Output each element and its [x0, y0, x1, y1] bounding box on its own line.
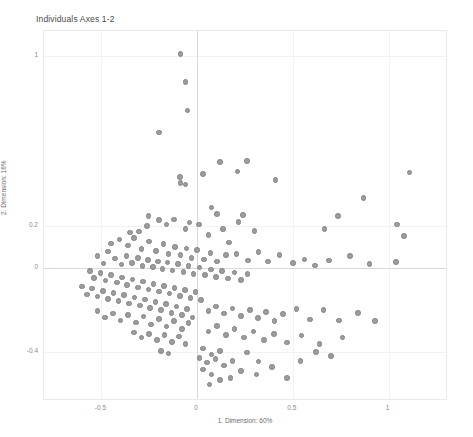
data-point — [95, 253, 101, 259]
data-point — [280, 311, 286, 317]
data-point — [121, 292, 127, 298]
data-point — [142, 297, 148, 303]
data-point — [133, 320, 139, 326]
data-point — [111, 290, 117, 296]
grid-line-horizontal — [44, 226, 446, 227]
data-point — [184, 306, 190, 312]
data-point — [171, 217, 177, 223]
data-point — [238, 368, 244, 374]
data-point — [139, 246, 145, 252]
data-point — [188, 295, 194, 301]
data-point — [232, 270, 238, 276]
data-point — [272, 318, 278, 324]
plot-panel — [43, 30, 447, 400]
data-point — [140, 263, 146, 269]
data-point — [313, 349, 319, 355]
data-point — [171, 318, 177, 324]
data-point — [158, 307, 164, 313]
grid-line-vertical — [101, 31, 102, 399]
data-point — [197, 265, 203, 271]
data-point — [336, 318, 342, 324]
data-point — [179, 312, 185, 318]
data-point — [165, 260, 171, 266]
data-point — [172, 285, 178, 291]
data-point — [117, 237, 123, 243]
data-point — [161, 283, 167, 289]
grid-line-horizontal — [44, 56, 446, 57]
data-point — [236, 219, 242, 225]
data-point — [240, 212, 246, 218]
data-point — [299, 333, 305, 339]
data-point — [202, 272, 208, 278]
data-point — [321, 307, 327, 313]
data-point — [95, 294, 101, 300]
y-axis-label: 2. Dimension: 16% — [0, 160, 7, 215]
data-point — [219, 268, 225, 274]
data-point — [214, 323, 220, 329]
data-point — [238, 277, 244, 283]
data-point — [307, 317, 313, 323]
data-point — [208, 250, 214, 256]
data-point — [245, 271, 251, 277]
data-point — [146, 239, 152, 245]
data-point — [226, 240, 232, 246]
reference-line-y-zero — [44, 268, 446, 269]
data-point — [110, 311, 116, 317]
data-point — [244, 350, 250, 356]
data-point — [204, 360, 210, 366]
x-tick-label: 1 — [386, 404, 390, 411]
data-point — [153, 299, 159, 305]
x-tick-label: -0.5 — [95, 404, 106, 411]
data-point — [146, 213, 152, 219]
data-point — [277, 252, 283, 258]
data-point — [232, 326, 238, 332]
data-point — [103, 278, 109, 284]
data-point — [119, 275, 125, 281]
data-point — [170, 268, 176, 274]
data-point — [141, 314, 147, 320]
data-point — [213, 274, 219, 280]
data-point — [108, 241, 114, 247]
data-point — [184, 246, 190, 252]
data-point — [129, 260, 135, 266]
data-point — [200, 367, 206, 373]
data-point — [144, 223, 150, 229]
data-point — [156, 316, 162, 322]
data-point — [118, 318, 124, 324]
data-point — [112, 256, 118, 262]
data-point — [284, 340, 290, 346]
data-point — [186, 263, 192, 269]
data-point — [302, 257, 308, 263]
data-point — [265, 259, 271, 265]
data-point — [234, 251, 240, 257]
data-point — [197, 355, 203, 361]
data-point — [156, 289, 162, 295]
data-point — [244, 158, 250, 164]
data-point — [200, 171, 206, 177]
data-point — [183, 182, 189, 188]
data-point — [147, 305, 153, 311]
data-point — [158, 348, 164, 354]
data-point — [137, 303, 143, 309]
data-point — [95, 308, 101, 314]
data-point — [179, 326, 185, 332]
data-point — [127, 230, 133, 236]
data-point — [328, 353, 334, 359]
data-point — [167, 291, 173, 297]
scatter-plot-figure: Individuals Axes 1-2 -0.500.51 -0.400.21… — [0, 0, 473, 437]
data-point — [124, 253, 130, 259]
data-point — [146, 331, 152, 337]
data-point — [245, 258, 251, 264]
data-point — [208, 267, 214, 273]
data-point — [393, 259, 399, 265]
data-point — [130, 277, 136, 283]
data-point — [148, 322, 154, 328]
data-point — [198, 297, 204, 303]
data-point — [182, 287, 188, 293]
data-point — [105, 249, 111, 255]
data-point — [189, 255, 195, 261]
data-point — [87, 268, 93, 274]
data-point — [178, 252, 184, 258]
data-point — [169, 310, 175, 316]
x-tick-label: 0 — [194, 404, 198, 411]
